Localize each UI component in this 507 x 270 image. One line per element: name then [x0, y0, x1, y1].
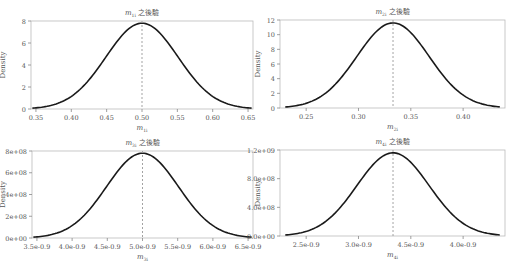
x-axis-label: m4i	[387, 251, 399, 260]
x-tick-label: 3.5e-0.9	[24, 243, 51, 251]
x-tick-label: 6.0e-0.9	[200, 243, 227, 251]
y-axis-label: Density	[254, 51, 262, 78]
x-tick-label: 0.55	[170, 114, 184, 122]
plot-frame	[280, 20, 505, 108]
density-curve	[285, 153, 500, 235]
y-tick-label: 4e+08	[5, 191, 27, 199]
y-tick-label: 8	[22, 18, 26, 26]
y-tick-label: 0.0e+00	[247, 233, 275, 241]
x-tick-label: 0.60	[205, 114, 219, 122]
x-tick-label: 0.35	[404, 113, 418, 121]
x-axis-label: m2i	[387, 123, 399, 132]
y-tick-label: 6e+08	[5, 169, 27, 177]
density-panel-1: 024680.350.400.450.500.550.600.65m1i 之後驗…	[0, 8, 255, 133]
y-tick-label: 8	[271, 46, 275, 54]
y-axis-label: Density	[0, 52, 7, 79]
x-tick-label: 0.50	[135, 114, 149, 122]
y-tick-label: 6	[271, 61, 275, 69]
x-tick-label: 6.5e-0.9	[235, 243, 262, 251]
x-tick-label: 4.5e-0.9	[94, 243, 121, 251]
x-tick-label: 0.65	[241, 114, 255, 122]
density-panel-3: 0e+002e+084e+086e+088e+083.5e-0.94.0e-0.…	[0, 138, 261, 262]
plot-frame	[280, 150, 505, 236]
density-panel-2: 0246810120.250.300.350.40m2i 之後驗m2iDensi…	[254, 7, 505, 132]
x-tick-label: 4.5e-0.9	[397, 241, 424, 249]
x-tick-label: 3.0e-0.9	[345, 241, 372, 249]
y-tick-label: 4	[22, 62, 26, 70]
y-tick-label: 2e+08	[5, 213, 27, 221]
panel-title: m2i 之後驗	[375, 7, 409, 17]
y-axis-label: Density	[0, 181, 7, 208]
x-axis-label: m1i	[137, 124, 149, 133]
x-tick-label: 0.30	[351, 113, 365, 121]
x-tick-label: 0.25	[299, 113, 313, 121]
x-axis-label: m3i	[137, 253, 149, 262]
x-tick-label: 4.0e-0.9	[59, 243, 86, 251]
y-axis-label: Density	[254, 180, 262, 207]
x-tick-label: 0.40	[64, 114, 78, 122]
panel-title: m1i 之後驗	[125, 8, 159, 18]
y-tick-label: 2	[271, 90, 275, 98]
y-tick-label: 0e+00	[5, 235, 27, 243]
panel-title: m4i 之後驗	[375, 137, 409, 147]
x-tick-label: 0.45	[99, 114, 113, 122]
x-tick-label: 0.35	[29, 114, 43, 122]
x-tick-label: 2.5e-0.9	[293, 241, 320, 249]
panel-title: m3i 之後驗	[125, 138, 159, 148]
y-tick-label: 0	[271, 105, 275, 113]
y-tick-label: 0	[22, 106, 26, 114]
density-curve	[285, 23, 500, 107]
x-tick-label: 5.0e-0.9	[129, 243, 156, 251]
x-tick-label: 5.5e-0.9	[164, 243, 191, 251]
y-tick-label: 8e+08	[5, 148, 27, 156]
y-tick-label: 6	[22, 40, 26, 48]
x-tick-label: 0.40	[456, 113, 470, 121]
x-tick-label: 4.0e-0.9	[450, 241, 477, 249]
y-tick-label: 10	[267, 31, 275, 39]
posterior-density-grid: 024680.350.400.450.500.550.600.65m1i 之後驗…	[0, 0, 507, 270]
y-tick-label: 2	[22, 84, 26, 92]
density-panel-4: 0.0e+004.0e+088.0e+081.2e+092.5e-0.93.0e…	[247, 137, 505, 260]
y-tick-label: 1.2e+09	[247, 147, 275, 155]
y-tick-label: 12	[267, 17, 275, 25]
chart-canvas: 024680.350.400.450.500.550.600.65m1i 之後驗…	[0, 0, 507, 270]
y-tick-label: 4	[271, 75, 275, 83]
